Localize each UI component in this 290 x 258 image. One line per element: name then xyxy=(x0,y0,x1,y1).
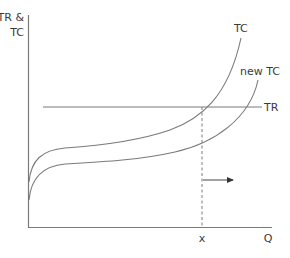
new-tc-label: new TC xyxy=(240,65,280,78)
new-tc-curve xyxy=(29,80,258,200)
tc-label: TC xyxy=(233,22,248,35)
tc-curve xyxy=(29,38,241,182)
x-tick-label: x xyxy=(199,232,206,245)
y-axis-label-line2: TC xyxy=(9,26,24,39)
x-axis-label: Q xyxy=(264,232,273,245)
tr-tc-chart: TR & TC Q x TR TC new TC xyxy=(0,0,290,258)
y-axis-label-line1: TR & xyxy=(0,11,24,24)
tr-label: TR xyxy=(263,101,279,114)
